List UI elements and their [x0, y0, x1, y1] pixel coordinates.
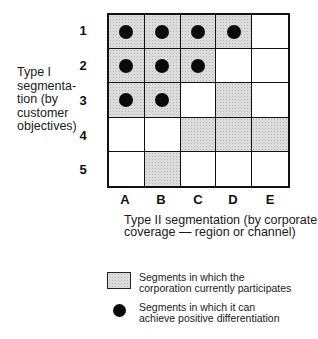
matrix-cell-2c: [181, 49, 217, 83]
column-label-b: B: [151, 192, 171, 207]
y-axis-label-line: Type I: [17, 66, 77, 80]
legend-text-line: corporation currently participates: [139, 283, 291, 294]
matrix-cell-1a: [109, 15, 145, 49]
matrix-cell-2a: [109, 49, 145, 83]
column-label-a: A: [115, 192, 135, 207]
matrix-cell-4e: [252, 118, 288, 152]
differentiation-dot-icon: [191, 25, 205, 39]
matrix-cell-4d: [216, 118, 252, 152]
differentiation-dot-icon: [119, 93, 133, 107]
matrix-cell-3a: [109, 83, 145, 117]
matrix-cell-1c: [181, 15, 217, 49]
differentiation-dot-icon: [155, 59, 169, 73]
matrix-cell-1b: [145, 15, 181, 49]
differentiation-dot-icon: [191, 59, 205, 73]
matrix-cell-4a: [109, 118, 145, 152]
row-label-5: 5: [77, 162, 89, 177]
matrix-cell-2e: [252, 49, 288, 83]
y-axis-label-line: customer: [17, 107, 77, 121]
row-label-2: 2: [77, 58, 89, 73]
matrix-cell-1d: [216, 15, 252, 49]
differentiation-dot-icon: [119, 59, 133, 73]
legend-black-dot-icon: [113, 304, 126, 317]
matrix-cell-3c: [181, 83, 217, 117]
legend-text-line: achieve positive differentiation: [139, 313, 279, 324]
matrix-cell-5b: [145, 152, 181, 186]
matrix-cell-5a: [109, 152, 145, 186]
legend-text-line: Segments in which it can: [139, 302, 279, 313]
matrix-cell-3d: [216, 83, 252, 117]
x-axis-label-line: coverage — region or channel): [124, 226, 317, 238]
matrix-cell-2b: [145, 49, 181, 83]
differentiation-dot-icon: [227, 25, 241, 39]
matrix-cell-4c: [181, 118, 217, 152]
matrix-cell-3b: [145, 83, 181, 117]
column-label-c: C: [188, 192, 208, 207]
segmentation-matrix: [107, 13, 290, 188]
matrix-cell-4b: [145, 118, 181, 152]
y-axis-label-line: segmenta-: [17, 80, 77, 94]
legend-item-differentiation: Segments in which it can achieve positiv…: [139, 302, 279, 323]
y-axis-label-line: objectives): [17, 120, 77, 134]
y-axis-label: Type I segmenta- tion (by customer objec…: [17, 66, 77, 134]
row-label-1: 1: [77, 23, 89, 38]
matrix-cell-5d: [216, 152, 252, 186]
column-label-e: E: [260, 192, 280, 207]
legend-text-line: Segments in which the: [139, 272, 291, 283]
differentiation-dot-icon: [119, 25, 133, 39]
legend-shaded-square-icon: [107, 272, 131, 289]
x-axis-label: Type II segmentation (by corporate cover…: [124, 214, 317, 238]
column-label-d: D: [223, 192, 243, 207]
matrix-cell-1e: [252, 15, 288, 49]
matrix-cell-3e: [252, 83, 288, 117]
y-axis-label-line: tion (by: [17, 93, 77, 107]
row-label-4: 4: [77, 128, 89, 143]
row-label-3: 3: [77, 93, 89, 108]
legend-item-participates: Segments in which the corporation curren…: [139, 272, 291, 293]
matrix-cell-2d: [216, 49, 252, 83]
matrix-cell-5c: [181, 152, 217, 186]
matrix-cell-5e: [252, 152, 288, 186]
differentiation-dot-icon: [155, 25, 169, 39]
differentiation-dot-icon: [155, 93, 169, 107]
